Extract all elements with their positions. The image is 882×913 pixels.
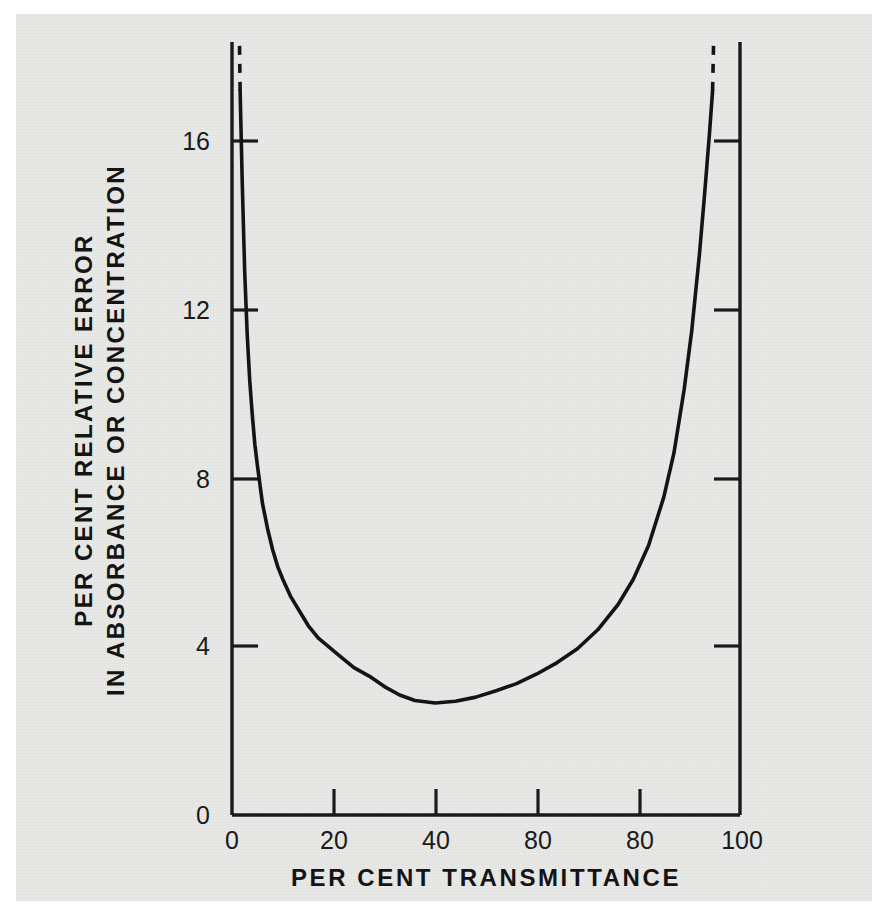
x-axis-title: PER CENT TRANSMITTANCE [291, 864, 681, 892]
x-tick-label-40: 40 [422, 828, 450, 853]
page-margin-left [0, 0, 16, 913]
error-curve [240, 91, 712, 703]
y-axis-title-line-1: PER CENT RELATIVE ERROR [70, 120, 98, 740]
right-frame-ticks [714, 141, 740, 646]
page-margin-top [0, 0, 882, 14]
x-tick-label-20: 20 [320, 828, 348, 853]
y-axis-title-line-2: IN ABSORBANCE OR CONCENTRATION [102, 120, 130, 740]
x-tick-label-80: 80 [626, 828, 654, 853]
y-tick-label-0: 0 [172, 803, 210, 828]
y-tick-label-16: 16 [160, 129, 210, 154]
x-axis-ticks [334, 789, 640, 815]
y-tick-label-8: 8 [172, 467, 210, 492]
x-tick-label-100: 100 [721, 828, 763, 853]
y-axis-ticks [232, 141, 258, 646]
figure-container: 0 4 8 12 16 0 20 40 80 80 100 PER CENT T… [0, 0, 882, 913]
page-margin-bottom [0, 901, 882, 913]
y-tick-label-12: 12 [160, 298, 210, 323]
x-tick-label-0: 0 [225, 828, 239, 853]
y-axis-title: PER CENT RELATIVE ERROR IN ABSORBANCE OR… [70, 120, 130, 740]
y-tick-label-4: 4 [172, 634, 210, 659]
photometric-error-plot [0, 0, 882, 913]
page-margin-right [872, 0, 882, 913]
x-tick-label-60: 80 [524, 828, 552, 853]
